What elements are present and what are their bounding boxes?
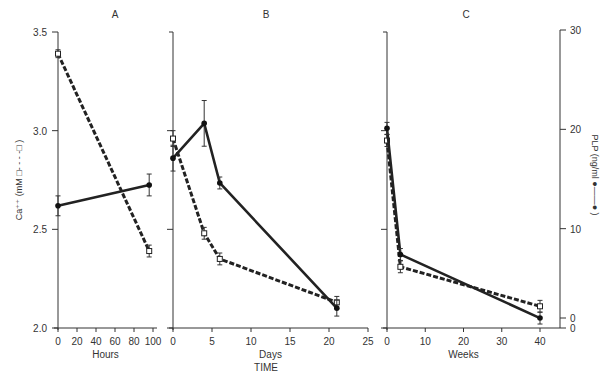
open-square-marker [171,136,176,141]
x-tick-label: 40 [90,336,102,347]
plp-series-line [58,185,149,206]
x-tick-label: 20 [323,336,335,347]
x-tick-label: 0 [170,336,176,347]
x-axis-label-b: Days [259,349,282,360]
x-tick-label: 10 [420,336,432,347]
x-tick-label: 0 [55,336,61,347]
plp-series-line [387,128,540,318]
x-tick-label: 30 [496,336,508,347]
x-tick-label: 0 [384,336,390,347]
left-tick-label: 2.5 [33,224,47,235]
x-tick-label: 100 [145,336,162,347]
left-tick-label: 2.0 [33,323,47,334]
right-tick-label: 30 [570,25,582,36]
open-square-marker [398,264,403,269]
open-square-marker [202,231,207,236]
data-series [55,50,543,324]
figure: 3.53.02.52.0Ca⁺⁺ (mM □- - - -□ )30201000… [0,0,609,377]
axes-frame [52,30,566,332]
right-tick-label: 20 [570,124,582,135]
filled-circle-marker [146,182,152,188]
x-tick-label: 10 [245,336,257,347]
left-tick-label: 3.0 [33,126,47,137]
filled-circle-marker [384,126,390,132]
filled-circle-marker [170,155,176,161]
x-tick-label: 15 [284,336,296,347]
filled-circle-marker [55,203,61,209]
x-tick-label: 40 [534,336,546,347]
panel-title-a: A [112,9,119,20]
calcium-series-line [387,141,540,307]
shared-time-label: TIME [254,362,278,373]
right-axis-label: PLP (ng/ml ●——● ) [590,134,600,215]
open-square-marker [217,256,222,261]
x-tick-label: 5 [209,336,215,347]
x-axis-label-a: Hours [92,349,119,360]
filled-circle-marker [537,315,543,321]
axis-labels: 3.53.02.52.0Ca⁺⁺ (mM □- - - -□ )30201000… [14,9,600,373]
x-tick-label: 60 [109,336,121,347]
filled-circle-marker [398,252,404,258]
x-tick-label: 20 [458,336,470,347]
filled-circle-marker [334,305,340,311]
x-tick-label: 20 [71,336,83,347]
right-tick-label: 10 [570,224,582,235]
filled-circle-marker [201,121,207,127]
calcium-series-line [58,54,149,251]
filled-circle-marker [217,180,223,186]
panel-title-c: C [462,9,469,20]
x-tick-label: 25 [362,336,374,347]
panel-title-b: B [263,9,270,20]
x-tick-label: 80 [128,336,140,347]
open-square-marker [538,304,543,309]
right-tick-label: 0 [570,323,576,334]
open-square-marker [56,51,61,56]
x-axis-label-c: Weeks [448,349,478,360]
open-square-marker [147,249,152,254]
left-tick-label: 3.5 [33,27,47,38]
left-axis-label: Ca⁺⁺ (mM □- - - -□ ) [14,140,24,220]
